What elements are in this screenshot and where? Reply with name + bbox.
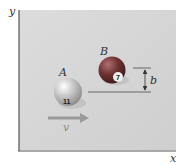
- ball-b: 7: [99, 57, 126, 84]
- svg-text:11: 11: [63, 98, 71, 105]
- ball-a: 11: [54, 78, 82, 106]
- ball-b-label: B: [100, 46, 108, 57]
- ball-a-label: A: [59, 67, 67, 78]
- y-axis-label: y: [9, 6, 15, 17]
- svg-text:7: 7: [116, 74, 120, 81]
- diagram-canvas: 7 11: [0, 0, 185, 165]
- offset-label: b: [150, 75, 157, 86]
- x-axis-label: x: [170, 153, 176, 164]
- velocity-label: v: [63, 122, 69, 133]
